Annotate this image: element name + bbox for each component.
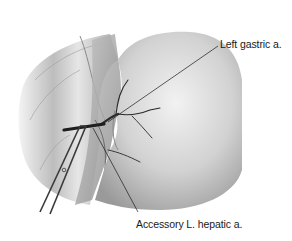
anatomy-illustration bbox=[0, 0, 292, 241]
label-left-gastric-artery: Left gastric a. bbox=[220, 38, 282, 50]
label-accessory-left-hepatic-artery: Accessory L. hepatic a. bbox=[136, 218, 242, 230]
